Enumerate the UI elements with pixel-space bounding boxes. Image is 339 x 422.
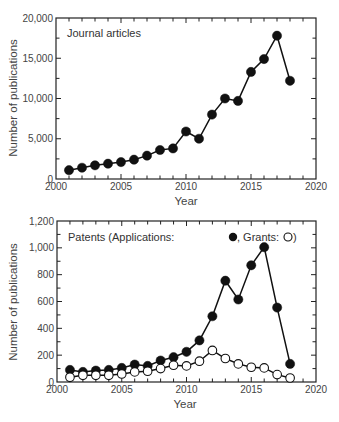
journal-articles-chart: 20002005201020152020 05,00010,00015,0002… xyxy=(7,13,328,208)
x-axis-tick-labels: 20002005201020152020 xyxy=(46,384,328,395)
x-tick-label: 2010 xyxy=(175,384,198,395)
patents-chart: 20002005201020152020 02004006008001,0001… xyxy=(7,216,328,411)
data-point-open xyxy=(117,370,126,379)
y-tick-label: 800 xyxy=(37,269,54,280)
y-tick-label: 1,000 xyxy=(29,242,54,253)
data-point-filled xyxy=(64,166,73,175)
y-tick-label: 15,000 xyxy=(22,53,53,64)
y-tick-label: 600 xyxy=(37,296,54,307)
plot-frame xyxy=(57,221,316,382)
axis-ticks xyxy=(57,221,316,382)
y-tick-label: 0 xyxy=(47,174,53,185)
y-tick-label: 400 xyxy=(37,323,54,334)
data-point-filled xyxy=(142,151,151,160)
data-point-open xyxy=(169,361,178,370)
y-axis-tick-labels: 02004006008001,0001,200 xyxy=(29,216,54,388)
data-point-filled xyxy=(220,94,229,103)
data-point-filled xyxy=(182,347,191,356)
data-point-filled xyxy=(90,161,99,170)
series-line xyxy=(69,36,290,170)
data-point-filled xyxy=(77,163,86,172)
data-point-filled xyxy=(234,295,243,304)
data-point-open xyxy=(156,364,165,373)
data-point-open xyxy=(195,357,204,366)
data-point-filled xyxy=(259,54,268,63)
figure: 20002005201020152020 05,00010,00015,0002… xyxy=(0,0,339,422)
y-axis-tick-labels: 05,00010,00015,00020,000 xyxy=(22,13,53,185)
legend: Patents (Applications: , Grants: ) xyxy=(68,231,297,243)
x-axis-title: Year xyxy=(173,398,196,410)
data-point-filled xyxy=(260,243,269,252)
data-point-open xyxy=(92,371,101,380)
legend-suffix: ) xyxy=(293,231,297,243)
data-point-open xyxy=(66,373,75,382)
data-point-filled xyxy=(103,159,112,168)
data-point-open xyxy=(286,374,295,383)
plot-frame xyxy=(56,18,316,179)
data-point-filled xyxy=(285,76,294,85)
x-tick-label: 2010 xyxy=(175,181,198,192)
legend-prefix: Patents (Applications: xyxy=(68,231,174,243)
data-point-open xyxy=(143,367,152,376)
x-tick-label: 2015 xyxy=(240,384,263,395)
x-tick-label: 2020 xyxy=(305,181,328,192)
axis-ticks xyxy=(56,18,316,179)
data-point-open xyxy=(208,346,217,355)
filled-circle-marker-icon xyxy=(229,233,237,241)
data-point-filled xyxy=(195,336,204,345)
data-point-filled xyxy=(246,67,255,76)
data-point-filled xyxy=(207,110,216,119)
data-series xyxy=(65,243,294,383)
y-axis-title: Number of publications xyxy=(7,243,19,361)
open-circle-marker-icon xyxy=(284,233,292,241)
data-point-filled xyxy=(273,303,282,312)
legend-label: Journal articles xyxy=(67,27,141,39)
y-tick-label: 1,200 xyxy=(29,216,54,227)
data-point-filled xyxy=(247,261,256,270)
data-point-filled xyxy=(181,127,190,136)
x-axis-title: Year xyxy=(174,195,197,207)
data-point-open xyxy=(182,362,191,371)
data-point-open xyxy=(273,370,282,379)
y-tick-label: 200 xyxy=(37,350,54,361)
data-point-filled xyxy=(208,312,217,321)
data-point-open xyxy=(234,360,243,369)
x-tick-label: 2005 xyxy=(111,384,134,395)
data-point-filled xyxy=(194,134,203,143)
data-point-open xyxy=(221,354,230,363)
y-tick-label: 0 xyxy=(48,377,54,388)
data-point-filled xyxy=(168,144,177,153)
y-tick-label: 10,000 xyxy=(22,93,53,104)
data-series xyxy=(64,31,294,175)
y-tick-label: 5,000 xyxy=(28,133,53,144)
series-line xyxy=(70,247,290,372)
data-point-open xyxy=(247,363,256,372)
data-point-filled xyxy=(129,155,138,164)
legend-label: Patents (Applications: xyxy=(68,231,174,243)
data-point-filled xyxy=(272,31,281,40)
x-tick-label: 2020 xyxy=(305,384,328,395)
data-point-filled xyxy=(221,276,230,285)
y-axis-title: Number of publications xyxy=(7,39,19,157)
x-axis-tick-labels: 20002005201020152020 xyxy=(45,181,328,192)
data-point-filled xyxy=(116,157,125,166)
data-point-open xyxy=(260,364,269,373)
x-tick-label: 2005 xyxy=(110,181,133,192)
y-tick-label: 20,000 xyxy=(22,13,53,24)
data-point-open xyxy=(79,371,88,380)
data-point-open xyxy=(130,368,139,377)
data-point-filled xyxy=(286,359,295,368)
data-point-open xyxy=(105,371,114,380)
x-tick-label: 2015 xyxy=(240,181,263,192)
data-point-filled xyxy=(233,96,242,105)
legend-mid: , Grants: xyxy=(237,231,279,243)
data-point-filled xyxy=(155,145,164,154)
